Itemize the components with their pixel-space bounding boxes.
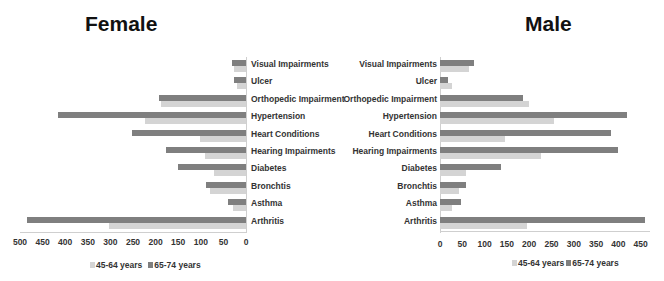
male-category-label: Heart Conditions [369, 129, 437, 139]
male-x-tick: 350 [589, 239, 603, 249]
legend-label: 45-64 years [96, 260, 142, 270]
female-bar-45-64 [145, 118, 246, 124]
male-bar-45-64 [440, 205, 452, 211]
male-x-tick: 400 [611, 239, 625, 249]
legend-swatch [566, 260, 571, 266]
female-x-tick: 400 [58, 237, 72, 247]
female-bar-45-64 [233, 205, 246, 211]
male-x-tick: 150 [500, 239, 514, 249]
female-x-tick: 200 [149, 237, 163, 247]
male-x-tick: 50 [458, 239, 467, 249]
male-x-tick: 0 [438, 239, 443, 249]
female-category-label: Hearing Impairments [251, 146, 336, 156]
male-category-label: Hypertension [383, 111, 437, 121]
female-category-label: Orthopedic Impairment [251, 94, 345, 104]
female-x-tick: 50 [219, 237, 228, 247]
male-bar-45-64 [440, 83, 452, 89]
female-bar-45-64 [210, 188, 246, 194]
female-x-tick: 250 [126, 237, 140, 247]
female-bar-45-64 [161, 101, 246, 107]
male-bar-45-64 [440, 170, 466, 176]
legend-item: 65-74 years [566, 258, 618, 268]
female-category-label: Heart Conditions [251, 129, 319, 139]
legend-swatch [148, 262, 153, 268]
male-category-label: Orthopedic Impairment [343, 94, 437, 104]
male-category-label: Visual Impairments [359, 59, 437, 69]
female-category-label: Ulcer [251, 76, 272, 86]
male-category-label: Asthma [406, 198, 437, 208]
male-category-label: Bronchtis [397, 181, 437, 191]
male-category-label: Arthritis [404, 216, 437, 226]
male-bar-45-64 [440, 188, 459, 194]
male-bar-45-64 [440, 223, 527, 229]
female-x-axis [20, 232, 246, 233]
female-x-tick: 300 [103, 237, 117, 247]
female-category-label: Visual Impairments [251, 59, 329, 69]
female-category-label: Asthma [251, 198, 282, 208]
female-bar-45-64 [234, 66, 246, 72]
female-legend: 45-64 years65-74 years [90, 260, 205, 270]
female-bar-45-64 [200, 136, 246, 142]
female-x-tick: 350 [81, 237, 95, 247]
male-category-label: Hearing Impairments [352, 146, 437, 156]
female-category-label: Hypertension [251, 111, 305, 121]
legend-item: 45-64 years [90, 260, 142, 270]
male-x-tick: 450 [634, 239, 648, 249]
male-x-tick: 100 [478, 239, 492, 249]
female-chart-title: Female [85, 12, 157, 36]
male-category-label: Ulcer [416, 76, 437, 86]
male-chart-title: Male [525, 12, 572, 36]
male-bar-45-64 [440, 136, 505, 142]
male-bar-45-64 [440, 66, 469, 72]
male-bar-45-64 [440, 101, 529, 107]
female-x-tick: 500 [13, 237, 27, 247]
female-x-tick: 150 [171, 237, 185, 247]
female-bar-45-64 [205, 153, 246, 159]
male-x-axis [440, 231, 650, 232]
female-x-tick: 100 [194, 237, 208, 247]
female-category-label: Arthritis [251, 216, 284, 226]
male-x-tick: 250 [544, 239, 558, 249]
male-bar-45-64 [440, 118, 554, 124]
legend-swatch [512, 260, 517, 266]
legend-item: 65-74 years [148, 260, 200, 270]
male-category-label: Diabetes [402, 163, 437, 173]
female-bar-45-64 [109, 223, 246, 229]
female-x-tick: 0 [244, 237, 249, 247]
female-category-label: Bronchtis [251, 181, 291, 191]
male-legend: 45-64 years65-74 years [512, 258, 619, 268]
male-x-tick: 200 [522, 239, 536, 249]
male-x-tick: 300 [567, 239, 581, 249]
legend-label: 65-74 years [154, 260, 200, 270]
male-bar-45-64 [440, 153, 541, 159]
female-y-axis [246, 57, 247, 233]
legend-item: 45-64 years [512, 258, 564, 268]
female-bar-45-64 [237, 83, 246, 89]
female-category-label: Diabetes [251, 163, 286, 173]
legend-label: 45-64 years [518, 258, 564, 268]
legend-swatch [90, 262, 95, 268]
female-x-tick: 450 [36, 237, 50, 247]
female-bar-45-64 [214, 170, 246, 176]
legend-label: 65-74 years [572, 258, 618, 268]
